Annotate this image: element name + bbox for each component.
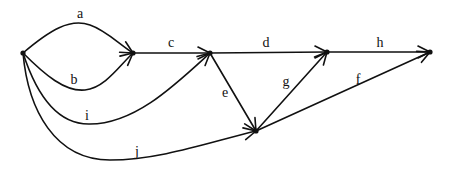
edge-d — [210, 52, 327, 53]
edge-label-e: e — [222, 85, 228, 100]
node-n4 — [324, 49, 329, 54]
edge-label-b: b — [71, 72, 78, 87]
edge-f — [256, 52, 430, 131]
edge-label-f: f — [356, 72, 361, 87]
edge-b — [23, 53, 133, 90]
edge-label-g: g — [283, 74, 290, 89]
edge-label-h: h — [377, 35, 384, 50]
edge-label-c: c — [168, 35, 174, 50]
node-n6 — [427, 49, 432, 54]
edge-label-j: j — [134, 144, 139, 159]
edge-i — [23, 53, 210, 124]
edge-label-i: i — [85, 108, 89, 123]
node-n3 — [207, 50, 212, 55]
edge-e — [210, 53, 256, 131]
edge-label-a: a — [77, 6, 84, 21]
edge-j — [23, 53, 256, 160]
node-n5 — [253, 128, 258, 133]
directed-graph-diagram: abcdhegfij — [0, 0, 452, 170]
node-n2 — [130, 50, 135, 55]
edge-a — [23, 23, 133, 53]
node-n1 — [20, 50, 25, 55]
edge-g — [256, 52, 327, 131]
edge-label-d: d — [263, 35, 270, 50]
